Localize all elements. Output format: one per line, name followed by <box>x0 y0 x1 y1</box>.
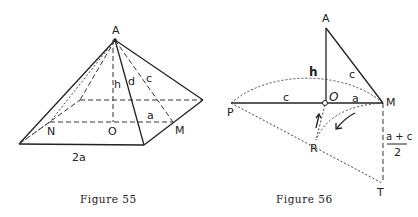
label-a: a <box>352 92 359 105</box>
label-c: c <box>146 72 152 85</box>
label-h: h <box>309 65 318 79</box>
label-fraction-denominator: 2 <box>394 146 401 159</box>
base-front-edge <box>19 144 144 145</box>
label-r: R <box>310 142 318 155</box>
arc-m-r <box>316 103 383 140</box>
semicircle-arc <box>231 78 383 103</box>
label-o: O <box>329 90 338 104</box>
figures-canvas: A h d c a N O M 2a Figure 55 A h <box>0 0 418 217</box>
label-m: M <box>386 96 396 109</box>
label-c-hypotenuse: c <box>349 68 355 81</box>
arrow-curved-icon <box>337 113 355 128</box>
edge-a-back-left <box>80 40 115 100</box>
label-c-left: c <box>283 91 289 104</box>
slant-c-line <box>115 40 173 122</box>
apex-point <box>113 38 117 42</box>
label-fraction-numerator: a + c <box>386 131 412 142</box>
label-h: h <box>114 78 121 91</box>
label-o: O <box>108 125 117 138</box>
line-a-n <box>50 40 115 122</box>
line-p-t <box>231 103 382 183</box>
label-d: d <box>128 75 135 88</box>
caption-figure-56: Figure 56 <box>276 193 333 205</box>
caption-figure-55: Figure 55 <box>80 193 137 205</box>
edge-a-front-right-d <box>115 40 144 145</box>
center-point-o <box>323 101 328 106</box>
figure-56: A h c c O a M P R T a + c 2 Figure 56 <box>227 12 412 205</box>
label-n: N <box>47 125 55 138</box>
base-right-edge <box>144 100 203 145</box>
edge-a-back-right <box>115 40 203 100</box>
label-t: T <box>376 186 384 199</box>
label-a-apex: A <box>112 24 120 37</box>
label-p: P <box>227 106 234 119</box>
label-a-apex: A <box>322 12 330 25</box>
label-a-half: a <box>147 109 154 122</box>
label-2a: 2a <box>72 151 86 164</box>
figure-55: A h d c a N O M 2a Figure 55 <box>19 24 203 205</box>
edge-a-front-left <box>19 40 115 144</box>
label-m: M <box>175 124 185 137</box>
